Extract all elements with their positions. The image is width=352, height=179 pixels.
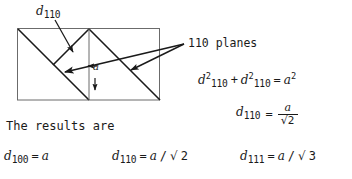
plane-line-inner-left <box>53 29 89 65</box>
eq-equals-operator: = <box>270 73 283 87</box>
result-d100: d100=a <box>4 150 49 164</box>
result-d110-radical-icon: √ <box>170 149 178 163</box>
equation-pythagoras: d2110+d2110=a2 <box>198 72 296 89</box>
result-d110-value: a <box>150 149 157 163</box>
eq-term2-subscript: 110 <box>254 78 271 89</box>
result-d100-value: a <box>42 149 49 163</box>
fraction-denominator-value: 2 <box>288 114 295 127</box>
fraction-a-over-root2: a √2 <box>278 102 298 127</box>
eq-term1-subscript: 110 <box>211 78 228 89</box>
eq-term1-symbol: d <box>198 73 206 87</box>
eq-plus-operator: + <box>228 73 241 87</box>
frac-lhs-subscript: 110 <box>244 110 261 121</box>
result-d111-slash: / <box>285 149 298 163</box>
result-d110-symbol: d <box>112 149 120 163</box>
figure-page: d110 a 110 planes d2110+d2110=a2 d110 = … <box>0 0 352 179</box>
result-d111: d111=a/√3 <box>240 150 319 164</box>
result-d111-equals: = <box>264 149 277 163</box>
eq-rhs-symbol: a <box>284 73 291 87</box>
planes-callout-label: 110 planes <box>188 38 257 50</box>
result-d110-slash: / <box>157 149 170 163</box>
d110-callout-label: d110 <box>36 5 60 19</box>
radical-sign-icon: √ <box>281 114 288 127</box>
lattice-constant-label: a <box>93 62 99 72</box>
result-d110-equals: = <box>136 149 149 163</box>
result-d111-symbol: d <box>240 149 248 163</box>
result-d111-value: a <box>278 149 285 163</box>
fraction-numerator: a <box>281 102 294 114</box>
result-d111-radical-icon: √ <box>298 149 306 163</box>
equation-solved-fraction: d110 = a √2 <box>236 101 298 126</box>
frac-lhs-symbol: d <box>236 105 244 119</box>
planes-leader-arrow-right <box>131 44 184 70</box>
result-d100-equals: = <box>28 149 41 163</box>
planes-leader-arrow-left <box>65 44 184 72</box>
d110-leader-arrow <box>55 20 73 52</box>
d110-callout-subscript: 110 <box>44 9 61 20</box>
eq-rhs-superscript: 2 <box>291 71 296 81</box>
lattice-constant-symbol: a <box>93 61 99 72</box>
result-d110-subscript: 110 <box>120 154 137 165</box>
result-d100-subscript: 100 <box>12 154 29 165</box>
result-d111-radicand: 3 <box>306 149 319 163</box>
result-d100-symbol: d <box>4 149 12 163</box>
eq-term2-symbol: d <box>241 73 249 87</box>
d110-callout-symbol: d <box>36 4 44 18</box>
result-d110: d110=a/√2 <box>112 150 191 164</box>
result-d111-subscript: 111 <box>248 154 265 165</box>
frac-lhs: d110 <box>236 106 260 120</box>
result-d110-radicand: 2 <box>178 149 191 163</box>
frac-equals-operator: = <box>265 108 272 120</box>
results-intro-text: The results are <box>6 120 114 132</box>
fraction-denominator: √2 <box>278 115 298 128</box>
